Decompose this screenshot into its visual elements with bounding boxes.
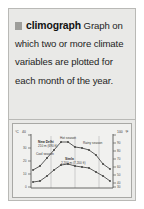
glossary-card: climograph Graph on which two or more cl…	[8, 8, 136, 201]
chart-right-axis-unit: °F	[125, 130, 128, 134]
chart-right-tick-label: 50	[117, 173, 121, 177]
chart-frame: °C 40 100 °F 30 20 10 0 90 80 70 60 50 4…	[12, 123, 132, 198]
definition-paragraph: climograph Graph on which two or more cl…	[15, 20, 123, 86]
square-bullet-icon	[15, 22, 22, 30]
climograph-figure: °C 40 100 °F 30 20 10 0 90 80 70 60 50 4…	[9, 120, 135, 201]
chart-left-tick-label: 10	[23, 172, 27, 176]
climograph-chart: °C 40 100 °F 30 20 10 0 90 80 70 60 50 4…	[13, 124, 131, 197]
chart-annotation-rainy-season: Rainy season	[83, 141, 103, 145]
glossary-term: climograph	[26, 20, 81, 31]
chart-right-tick-label: 70	[117, 157, 121, 161]
chart-left-axis-unit: °C	[15, 130, 19, 134]
chart-right-axis-top-value: 100	[117, 130, 123, 134]
chart-left-axis-top-value: 40	[22, 130, 26, 134]
chart-annotation-hot-season: Hot season	[60, 136, 76, 140]
chart-label-new-delhi-elevation: 210 m (690 ft)	[38, 144, 57, 148]
chart-left-tick-label: 30	[23, 146, 27, 150]
definition-block: climograph Graph on which two or more cl…	[9, 9, 135, 93]
chart-left-tick-label: 20	[23, 159, 27, 163]
chart-label-simla-elevation: 2,200 m (7,200 ft)	[61, 161, 85, 165]
chart-right-tick-label: 80	[117, 149, 121, 153]
chart-right-tick-label: 30	[117, 185, 121, 189]
chart-left-tick-label: 0	[25, 185, 27, 189]
page-root: climograph Graph on which two or more cl…	[0, 0, 144, 209]
chart-annotation-cool-season: Cool season	[36, 152, 54, 156]
chart-right-tick-label: 90	[117, 141, 121, 145]
chart-right-tick-label: 60	[117, 165, 121, 169]
